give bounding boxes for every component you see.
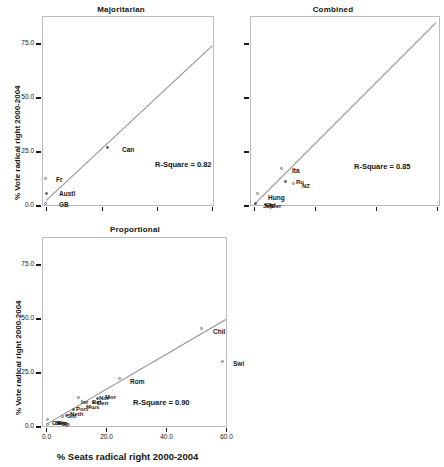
- panel-title-majoritarian: Majoritarian: [28, 5, 214, 14]
- y-tick-majoritarian-25: [36, 151, 41, 153]
- data-point-label: Aus: [88, 404, 99, 410]
- data-point: [44, 202, 47, 205]
- x-tick-proportional-60: [226, 428, 227, 432]
- x-tick-proportional-0: [46, 428, 47, 432]
- data-point-label: Isr: [81, 399, 88, 405]
- data-point: [221, 360, 224, 363]
- plot-area-majoritarian: [42, 16, 214, 206]
- y-tick-majoritarian-0: [36, 205, 41, 207]
- panel-combined: Combined Ita Ru NZ Hung Bul Ger Jap R-Sq…: [222, 0, 444, 220]
- x-tick-majoritarian-20: [102, 207, 103, 211]
- x-tick-label-proportional-0: 0.0: [34, 433, 59, 440]
- data-point-label: Slo: [67, 413, 76, 419]
- y-tick-label-proportional-25: 25.0: [10, 368, 34, 375]
- x-tick-combined-20: [315, 207, 316, 211]
- y-tick-label-proportional-75: 75.0: [10, 260, 34, 267]
- x-tick-proportional-40: [166, 428, 167, 432]
- data-point: [280, 167, 283, 170]
- data-point-label: Can: [122, 146, 134, 153]
- y-tick-label-majoritarian-75: 75.0: [10, 39, 34, 46]
- x-tick-label-proportional-60: 60.0: [214, 433, 239, 440]
- data-point-label: Fin: [58, 420, 67, 426]
- panel-majoritarian: Majoritarian 75.0 50.0 25.0 0.0 Fr Austl…: [0, 0, 222, 220]
- y-tick-combined-0: [244, 205, 249, 207]
- data-point: [77, 396, 80, 399]
- x-tick-combined-60: [437, 207, 438, 211]
- plot-area-combined: [250, 16, 440, 206]
- data-point-label: Hung: [268, 194, 285, 201]
- scatter-plot-figure: % Vote radical right 2000-2004 Majoritar…: [0, 0, 444, 467]
- data-point-label: Austl: [59, 190, 75, 197]
- data-point: [46, 418, 49, 421]
- data-point-label: NZ: [302, 183, 310, 189]
- data-point-label: Rom: [130, 378, 144, 385]
- y-tick-label-majoritarian-25: 25.0: [10, 147, 34, 154]
- x-tick-combined-40: [376, 207, 377, 211]
- y-tick-proportional-50: [36, 318, 41, 320]
- y-tick-combined-25: [244, 151, 249, 153]
- y-tick-proportional-75: [36, 264, 41, 266]
- data-point-label: Jap: [263, 203, 273, 209]
- panel-title-proportional: Proportional: [40, 225, 230, 234]
- data-point-label: Fr: [56, 176, 63, 183]
- y-tick-combined-50: [244, 97, 249, 99]
- x-tick-majoritarian-0: [46, 207, 47, 211]
- y-tick-majoritarian-75: [36, 43, 41, 45]
- panel-proportional: Proportional % Vote radical right 2000-2…: [0, 215, 250, 467]
- data-point: [284, 180, 287, 183]
- data-point: [200, 327, 203, 330]
- y-tick-proportional-25: [36, 372, 41, 374]
- r-square-annotation-proportional: R-Square = 0.90: [133, 398, 189, 407]
- data-point-label: Chil: [213, 328, 225, 335]
- x-tick-combined-0: [254, 207, 255, 211]
- r-square-annotation-majoritarian: R-Square = 0.82: [155, 160, 211, 169]
- r-square-annotation-combined: R-Square = 0.85: [354, 162, 410, 171]
- y-tick-label-proportional-50: 50.0: [10, 314, 34, 321]
- data-point-label: GB: [59, 201, 69, 208]
- data-point-label: Ita: [292, 167, 300, 174]
- data-point: [44, 177, 47, 180]
- y-tick-label-majoritarian-0: 0.0: [10, 201, 34, 208]
- x-tick-label-proportional-40: 40.0: [154, 433, 179, 440]
- y-tick-label-majoritarian-50: 50.0: [10, 93, 34, 100]
- data-point: [46, 423, 49, 426]
- data-point: [292, 182, 295, 185]
- data-point: [118, 377, 121, 380]
- y-tick-majoritarian-50: [36, 97, 41, 99]
- x-tick-proportional-20: [106, 428, 107, 432]
- data-point: [106, 146, 109, 149]
- y-tick-combined-75: [244, 43, 249, 45]
- y-tick-label-proportional-0: 0.0: [10, 422, 34, 429]
- data-point: [256, 192, 259, 195]
- data-point: [254, 202, 257, 205]
- panel-title-combined: Combined: [232, 5, 434, 14]
- x-tick-majoritarian-40: [157, 207, 158, 211]
- x-axis-title-proportional: % Seats radical right 2000-2004: [20, 451, 235, 462]
- x-tick-label-proportional-20: 20.0: [94, 433, 119, 440]
- y-tick-proportional-0: [36, 426, 41, 428]
- data-point: [45, 192, 48, 195]
- x-tick-majoritarian-60: [212, 207, 213, 211]
- data-point: [61, 415, 64, 418]
- data-point-label: Swi: [233, 360, 244, 367]
